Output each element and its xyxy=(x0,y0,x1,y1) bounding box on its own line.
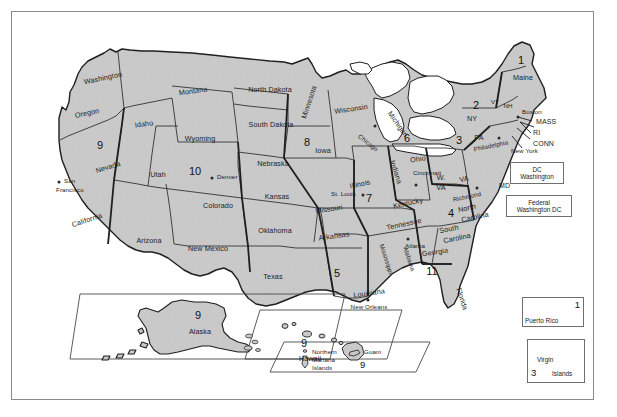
state-label-arizona: Arizona xyxy=(136,237,161,244)
state-label-idaho: Idaho xyxy=(134,119,153,129)
city-label-denver: Denver xyxy=(217,174,238,180)
state-label-vermont: VT xyxy=(491,99,499,105)
city-label-new-york: New York xyxy=(511,148,538,154)
inset-label-virgin: Virgin xyxy=(537,356,553,363)
city-dot-cincinnati xyxy=(415,184,418,187)
city-dot-new-orleans xyxy=(367,299,370,302)
circuit-number-7: 7 xyxy=(366,193,372,204)
alaska-shape xyxy=(102,300,252,360)
circuit-number-11: 11 xyxy=(426,266,437,277)
map-frame: Washington Oregon Idaho Montana Wyoming … xyxy=(11,11,594,400)
city-label-atlanta: Atlanta xyxy=(405,243,425,249)
state-label-ohio: Ohio xyxy=(410,154,426,163)
city-dot-chicago xyxy=(374,125,377,128)
circuit-number-10: 10 xyxy=(189,166,201,177)
inset-number-puerto-rico: 1 xyxy=(575,299,580,310)
city-label-boston: Boston xyxy=(522,109,542,115)
state-label-north-dakota: North Dakota xyxy=(248,86,292,93)
puerto-rico-inset-box[interactable]: 1 Puerto Rico xyxy=(522,297,584,327)
inset-label-islands: Islands xyxy=(552,370,572,377)
inset-label-alaska: Alaska xyxy=(189,328,211,335)
city-label-new-orleans: New Orleans xyxy=(351,304,388,310)
inset-number-hawaii: 9 xyxy=(301,338,307,349)
dc-circuit-line2: Washington xyxy=(520,173,554,180)
state-label-west-virginia: VA xyxy=(436,184,445,191)
state-label-new-york: NY xyxy=(467,115,477,122)
state-label-virginia: VA xyxy=(459,175,470,184)
state-label-oklahoma: Oklahoma xyxy=(258,227,292,234)
city-label-san-francisco-line1: San xyxy=(64,178,75,184)
circuit-number-2: 2 xyxy=(473,100,479,111)
state-label-wyoming: Wyoming xyxy=(185,135,216,142)
circuit-number-6: 6 xyxy=(404,133,410,144)
state-label-maryland: MD xyxy=(499,182,510,189)
state-label-connecticut: CONN xyxy=(533,140,554,147)
inset-label-mariana-line3: Islands xyxy=(312,365,332,371)
state-label-new-hampshire: NH xyxy=(503,103,512,109)
city-dot-san-francisco xyxy=(58,181,61,184)
circuit-number-8: 8 xyxy=(304,137,310,148)
city-label-san-francisco-line2: Francisco xyxy=(56,187,84,193)
contiguous-us-landmass xyxy=(59,42,546,308)
state-label-texas: Texas xyxy=(263,273,282,280)
city-dot-richmond xyxy=(476,187,479,190)
state-label-iowa: Iowa xyxy=(315,147,331,154)
map-stage: Washington Oregon Idaho Montana Wyoming … xyxy=(12,12,593,399)
inset-label-guam: Guam xyxy=(364,349,381,355)
city-label-cincinnati: Cincinnati xyxy=(413,170,441,176)
city-dot-denver xyxy=(211,177,214,180)
circuit-number-5: 5 xyxy=(334,268,340,279)
inset-label-mariana-line1: Northern xyxy=(312,349,337,355)
virgin-islands-inset-box[interactable]: Virgin 3 Islands xyxy=(527,339,585,383)
state-label-rhode-island: RI xyxy=(533,129,540,136)
federal-circuit-line1: Federal xyxy=(517,199,562,206)
state-label-massachusetts: MASS xyxy=(536,118,556,125)
aleutian-islands xyxy=(244,334,261,352)
inset-label-mariana-line2: Mariana xyxy=(312,357,335,363)
state-label-new-mexico: New Mexico xyxy=(188,245,228,252)
state-label-nebraska: Nebraska xyxy=(257,160,289,167)
state-label-colorado: Colorado xyxy=(203,202,233,209)
city-dot-st-louis xyxy=(362,194,365,197)
federal-circuit-callout[interactable]: Federal Washington DC xyxy=(506,195,572,217)
inset-number-virgin-islands: 3 xyxy=(531,367,536,378)
inset-label-puerto-rico: Puerto Rico xyxy=(525,317,558,324)
state-label-maine: Maine xyxy=(513,74,533,81)
inset-number-pacific: 9 xyxy=(360,360,365,370)
state-label-kansas: Kansas xyxy=(265,193,290,200)
state-label-pennsylvania: PA xyxy=(474,134,483,141)
state-label-utah: Utah xyxy=(150,171,166,178)
circuit-number-1: 1 xyxy=(518,55,524,66)
city-label-st-louis: St. Louis xyxy=(331,191,356,197)
state-label-south-dakota: South Dakota xyxy=(249,121,294,128)
dc-circuit-line1: DC xyxy=(520,166,554,173)
inset-number-alaska: 9 xyxy=(195,310,201,321)
federal-circuit-line2: Washington DC xyxy=(517,206,562,213)
city-dot-boston xyxy=(517,116,520,119)
circuit-number-3: 3 xyxy=(456,135,462,146)
circuit-number-9: 9 xyxy=(97,140,103,151)
circuit-number-4: 4 xyxy=(448,208,454,219)
dc-circuit-callout[interactable]: DC Washington xyxy=(510,162,564,184)
city-dot-atlanta xyxy=(407,238,410,241)
